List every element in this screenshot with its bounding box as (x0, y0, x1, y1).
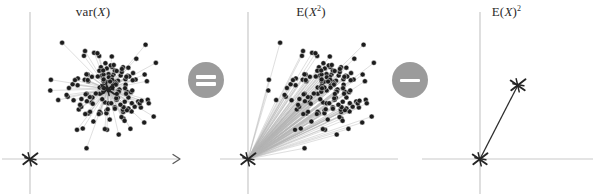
centroid-marker-x-icon (511, 79, 526, 92)
panel-plot-second-moment (218, 0, 404, 196)
panel-second-moment: E(X2) (218, 0, 404, 196)
panel-variance: var(X) (0, 0, 186, 196)
minus-icon-bar (400, 79, 420, 83)
panel-mean-squared: E(X)2 (420, 0, 593, 196)
axes (422, 12, 593, 194)
equals-icon-bar-bottom (196, 82, 216, 86)
equals-icon-bar-top (196, 75, 216, 79)
panel-plot-variance (0, 0, 186, 196)
variance-identity-figure: var(X) E(X2) E(X)2 (0, 0, 593, 196)
panel-plot-mean-squared (420, 0, 593, 196)
mean-vector (480, 85, 518, 159)
